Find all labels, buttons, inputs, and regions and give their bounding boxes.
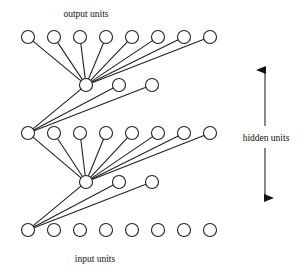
edge-hidden-0-to-hidden-1-6 xyxy=(92,136,178,179)
input-unit-5 xyxy=(152,224,165,237)
hidden-2-unit-1 xyxy=(113,79,126,92)
input-units-label: input units xyxy=(75,254,116,264)
edge-hidden-1-to-hidden-2-2 xyxy=(34,87,146,130)
output-unit-4 xyxy=(126,31,139,44)
input-unit-7 xyxy=(204,224,217,237)
output-unit-0 xyxy=(22,31,35,44)
edge-input-to-hidden-0-1 xyxy=(34,185,114,227)
hidden-0-unit-2 xyxy=(146,176,159,189)
edge-input-to-hidden-0-2 xyxy=(34,184,146,227)
edge-hidden-2-to-output-6 xyxy=(92,40,178,82)
hidden-0-unit-0 xyxy=(80,176,93,189)
hidden-2-unit-2 xyxy=(146,79,159,92)
output-unit-1 xyxy=(48,31,61,44)
hidden-0-unit-1 xyxy=(113,176,126,189)
hidden-1-unit-7 xyxy=(204,127,217,140)
hidden-1-unit-6 xyxy=(178,127,191,140)
input-unit-0 xyxy=(22,224,35,237)
hidden-1-unit-0 xyxy=(22,127,35,140)
output-unit-5 xyxy=(152,31,165,44)
edge-hidden-1-to-hidden-2-1 xyxy=(34,88,114,130)
edge-hidden-0-to-hidden-1-3 xyxy=(88,139,103,176)
hidden-1-unit-2 xyxy=(74,127,87,140)
edge-hidden-0-to-hidden-1-0 xyxy=(33,137,81,178)
hidden-units-label: hidden units xyxy=(243,133,290,143)
output-units-label: output units xyxy=(63,9,108,19)
hidden-1-unit-5 xyxy=(152,127,165,140)
edge-hidden-2-to-output-1 xyxy=(58,42,83,79)
units xyxy=(22,31,217,237)
hidden-1-unit-1 xyxy=(48,127,61,140)
edge-hidden-2-to-output-2 xyxy=(81,43,85,78)
output-unit-7 xyxy=(204,31,217,44)
input-unit-3 xyxy=(100,224,113,237)
edge-hidden-2-to-output-0 xyxy=(33,41,81,81)
hidden-1-unit-3 xyxy=(100,127,113,140)
hidden-1-unit-4 xyxy=(126,127,139,140)
edge-hidden-0-to-hidden-1-2 xyxy=(81,139,85,175)
output-unit-3 xyxy=(100,31,113,44)
input-unit-1 xyxy=(48,224,61,237)
output-unit-2 xyxy=(74,31,87,44)
edge-hidden-2-to-output-3 xyxy=(89,43,104,79)
output-unit-6 xyxy=(178,31,191,44)
input-unit-2 xyxy=(74,224,87,237)
hidden-2-unit-0 xyxy=(80,79,93,92)
edge-hidden-0-to-hidden-1-1 xyxy=(58,138,83,176)
network-diagram: output units input units hidden units xyxy=(0,0,305,279)
input-unit-6 xyxy=(178,224,191,237)
input-unit-4 xyxy=(126,224,139,237)
